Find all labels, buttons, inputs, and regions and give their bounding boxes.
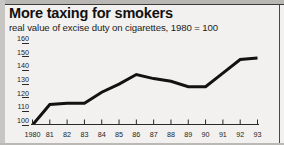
chart-subtitle: real value of excise duty on cigarettes,… [9,22,218,33]
series-line [33,58,258,125]
x-axis-tick-label: 86 [132,130,140,139]
x-axis-tick-label: 91 [219,130,227,139]
x-axis-tick-label: 83 [80,130,88,139]
chart-title: More taxing for smokers [9,5,173,21]
y-axis-tick-dash [22,70,29,71]
bottom-margin-band [0,143,284,145]
x-axis-tick-label: 82 [63,130,71,139]
y-axis-tick-label: 130 [17,76,29,83]
plot-area [31,39,259,125]
y-axis-tick-label: 100 [17,117,29,124]
y-axis-tick-dash [22,56,29,57]
x-axis-tick-label: 1980 [25,130,41,139]
x-axis-tick-label: 84 [98,130,106,139]
right-border-rule [279,5,280,145]
y-axis-tick-label: 120 [17,90,29,97]
left-margin-strip [0,0,5,145]
y-axis-tick-label: 110 [18,103,29,110]
y-axis-tick-dash [22,43,29,44]
x-axis-tick-label: 92 [236,130,244,139]
y-axis-tick-label: 140 [17,62,29,69]
x-axis-tick-label: 85 [115,130,123,139]
x-axis-tick-label: 89 [184,130,192,139]
y-axis-tick-label: 150 [17,49,29,56]
x-axis-tick-label: 81 [46,130,54,139]
y-axis-tick-dash [22,97,29,98]
x-axis-tick-label: 87 [150,130,158,139]
x-axis: 198081828384858687888990919293 [31,130,259,141]
x-axis-tick-label: 93 [254,130,262,139]
y-axis-tick-dash [22,111,29,112]
y-axis: 100110120130140150160 [9,36,29,128]
y-axis-tick-dash [22,84,29,85]
chart-figure: More taxing for smokers real value of ex… [0,0,284,145]
y-axis-tick-dash [22,125,29,126]
series-line-svg [31,39,259,125]
x-axis-tick-label: 90 [202,130,210,139]
y-axis-tick-label: 160 [17,35,29,42]
x-axis-tick-label: 88 [167,130,175,139]
